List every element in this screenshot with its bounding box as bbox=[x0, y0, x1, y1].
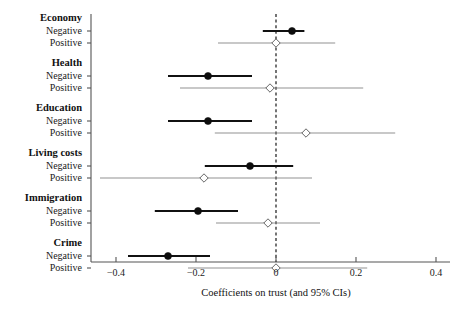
row-label-living-costs-positive: Positive bbox=[50, 172, 83, 183]
forest-plot-figure: EconomyNegativePositiveHealthNegativePos… bbox=[0, 0, 463, 310]
x-tick-label: 0 bbox=[274, 267, 279, 278]
row-label-living-costs-negative: Negative bbox=[46, 160, 83, 171]
row-label-economy-positive: Positive bbox=[50, 37, 83, 48]
group-label-immigration: Immigration bbox=[25, 192, 82, 203]
row-label-immigration-positive: Positive bbox=[50, 217, 83, 228]
estimate-point-crime-negative bbox=[165, 253, 172, 260]
row-label-economy-negative: Negative bbox=[46, 25, 83, 36]
row-label-education-positive: Positive bbox=[50, 127, 83, 138]
x-axis-title: Coefficients on trust (and 95% CIs) bbox=[201, 287, 351, 299]
group-label-crime: Crime bbox=[53, 237, 82, 248]
estimate-point-education-negative bbox=[205, 118, 212, 125]
row-label-education-negative: Negative bbox=[46, 115, 83, 126]
group-label-health: Health bbox=[52, 57, 82, 68]
x-tick-label: −0.4 bbox=[107, 267, 125, 278]
x-tick-label: 0.2 bbox=[350, 267, 363, 278]
estimate-point-health-negative bbox=[205, 73, 212, 80]
group-label-economy: Economy bbox=[40, 12, 83, 23]
coefficient-forest-plot: EconomyNegativePositiveHealthNegativePos… bbox=[0, 0, 463, 310]
row-label-crime-positive: Positive bbox=[50, 262, 83, 273]
x-tick-label: −0.2 bbox=[187, 267, 205, 278]
estimate-point-immigration-negative bbox=[195, 208, 202, 215]
row-label-health-negative: Negative bbox=[46, 70, 83, 81]
row-label-immigration-negative: Negative bbox=[46, 205, 83, 216]
estimate-point-living-costs-negative bbox=[247, 163, 254, 170]
group-label-living-costs: Living costs bbox=[29, 147, 82, 158]
row-label-crime-negative: Negative bbox=[46, 250, 83, 261]
row-label-health-positive: Positive bbox=[50, 82, 83, 93]
x-tick-label: 0.4 bbox=[430, 267, 443, 278]
estimate-point-economy-negative bbox=[289, 28, 296, 35]
group-label-education: Education bbox=[36, 102, 82, 113]
